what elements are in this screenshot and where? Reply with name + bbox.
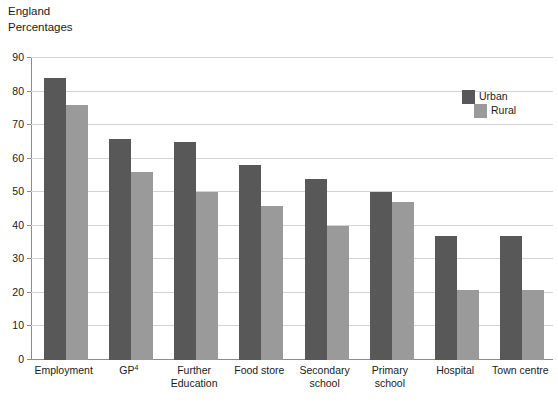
bar-rural[interactable] — [392, 202, 414, 360]
x-axis-label-line: Education — [162, 377, 227, 390]
y-tick-label: 0 — [18, 353, 24, 365]
legend-swatch-urban-icon — [462, 90, 475, 104]
x-axis-label-line: Primary — [357, 364, 422, 377]
legend-swatch-rural-icon — [474, 104, 487, 118]
y-tick-label: 20 — [12, 286, 24, 298]
x-axis-label: Secondaryschool — [292, 364, 357, 390]
x-axis-label-line: Employment — [31, 364, 96, 377]
x-axis-labels: EmploymentGP4FurtherEducationFood storeS… — [31, 364, 553, 407]
x-axis-label-line: Secondary — [292, 364, 357, 377]
x-axis-label-line: Further — [162, 364, 227, 377]
x-axis-label: FurtherEducation — [162, 364, 227, 390]
bar-urban[interactable] — [305, 179, 327, 360]
bar-urban[interactable] — [109, 139, 131, 360]
bar-rural[interactable] — [131, 172, 153, 360]
y-tick-label: 70 — [12, 118, 24, 130]
bar-rural[interactable] — [327, 226, 349, 360]
bar-group — [174, 57, 218, 360]
bar-group — [370, 57, 414, 360]
x-axis-label: Town centre — [488, 364, 553, 377]
bar-urban[interactable] — [44, 78, 66, 360]
bar-urban[interactable] — [370, 192, 392, 360]
x-axis-label-line: Hospital — [423, 364, 488, 377]
chart-region-title: England — [8, 3, 308, 19]
x-axis-label: Employment — [31, 364, 96, 377]
bar-rural[interactable] — [457, 290, 479, 360]
x-axis-label-line: school — [357, 377, 422, 390]
x-axis-label: Primaryschool — [357, 364, 422, 390]
x-axis-label-line: Food store — [227, 364, 292, 377]
legend-label-rural: Rural — [491, 103, 516, 118]
x-axis-label: Hospital — [423, 364, 488, 377]
bar-group — [239, 57, 283, 360]
x-axis-label: GP4 — [96, 364, 161, 377]
bar-urban[interactable] — [435, 236, 457, 360]
bar-rural[interactable] — [261, 206, 283, 360]
y-tick-label: 80 — [12, 85, 24, 97]
chart-units-subtitle: Percentages — [8, 19, 308, 35]
y-tick-label: 30 — [12, 252, 24, 264]
bar-urban[interactable] — [239, 165, 261, 360]
bar-urban[interactable] — [174, 142, 196, 360]
bar-rural[interactable] — [66, 105, 88, 360]
bar-group — [44, 57, 88, 360]
bar-rural[interactable] — [522, 290, 544, 360]
chart-legend: Urban Rural — [462, 89, 554, 121]
bar-chart: England Percentages 0102030405060708090 … — [0, 0, 558, 407]
chart-title-block: England Percentages — [8, 3, 308, 35]
y-tick-label: 10 — [12, 319, 24, 331]
x-axis-label-line: GP4 — [96, 364, 161, 377]
legend-label-urban: Urban — [479, 89, 508, 104]
x-axis-label: Food store — [227, 364, 292, 377]
y-tick-label: 60 — [12, 152, 24, 164]
x-axis-label-line: Town centre — [488, 364, 553, 377]
y-tick-label: 40 — [12, 219, 24, 231]
y-tick-label: 90 — [12, 51, 24, 63]
x-axis-label-line: school — [292, 377, 357, 390]
bar-group — [109, 57, 153, 360]
x-axis-label-footnote: 4 — [135, 364, 139, 371]
y-tick-label: 50 — [12, 185, 24, 197]
bar-rural[interactable] — [196, 192, 218, 360]
bar-urban[interactable] — [500, 236, 522, 360]
bar-group — [305, 57, 349, 360]
